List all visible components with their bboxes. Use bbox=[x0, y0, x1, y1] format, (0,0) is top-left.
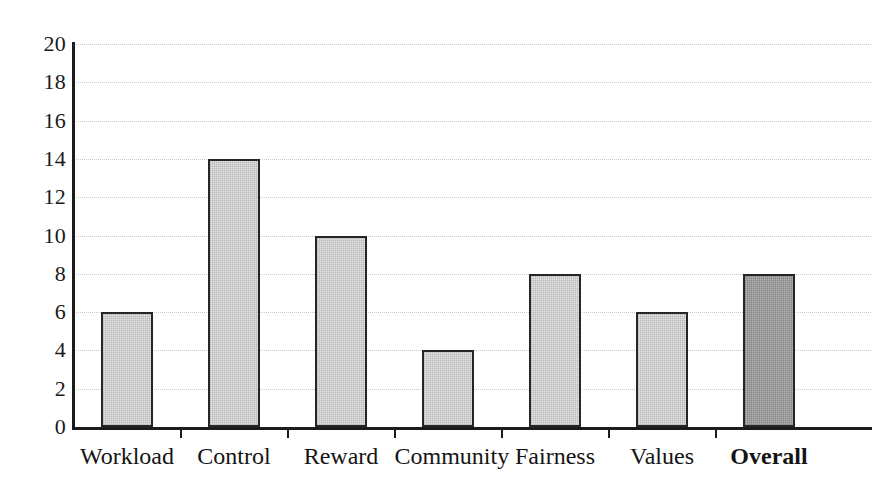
x-label-reward: Reward bbox=[288, 441, 395, 471]
bar-control bbox=[208, 159, 260, 427]
y-tick-label-4: 4 bbox=[8, 339, 66, 361]
x-tick-5 bbox=[715, 427, 717, 438]
y-axis-tick-labels: 20181614121086420 bbox=[0, 0, 66, 496]
y-tick-label-6: 6 bbox=[8, 301, 66, 323]
y-tick-label-0: 0 bbox=[8, 416, 66, 438]
x-tick-4 bbox=[608, 427, 610, 438]
bar-reward bbox=[315, 236, 367, 428]
x-tick-2 bbox=[394, 427, 396, 438]
gridline-20 bbox=[74, 44, 871, 45]
x-label-workload: Workload bbox=[74, 441, 181, 471]
bar-chart: 20181614121086420 WorkloadControlRewardC… bbox=[0, 0, 896, 496]
gridline-14 bbox=[74, 159, 871, 160]
x-label-values: Values bbox=[609, 441, 716, 471]
y-tick-label-10: 10 bbox=[8, 225, 66, 247]
gridline-18 bbox=[74, 82, 871, 83]
bar-values bbox=[636, 312, 688, 427]
gridline-10 bbox=[74, 236, 871, 237]
y-axis-line bbox=[72, 42, 75, 430]
bar-overall bbox=[743, 274, 795, 427]
y-tick-label-2: 2 bbox=[8, 378, 66, 400]
x-tick-1 bbox=[287, 427, 289, 438]
x-axis-line bbox=[72, 427, 872, 430]
y-tick-label-8: 8 bbox=[8, 263, 66, 285]
x-tick-0 bbox=[180, 427, 182, 438]
y-tick-label-18: 18 bbox=[8, 71, 66, 93]
x-label-control: Control bbox=[181, 441, 288, 471]
y-tick-label-12: 12 bbox=[8, 186, 66, 208]
y-tick-label-16: 16 bbox=[8, 110, 66, 132]
gridline-12 bbox=[74, 197, 871, 198]
plot-area bbox=[74, 44, 871, 427]
y-tick-label-14: 14 bbox=[8, 148, 66, 170]
x-label-overall: Overall bbox=[716, 441, 823, 471]
x-tick-3 bbox=[501, 427, 503, 438]
x-label-fairness: Fairness bbox=[502, 441, 609, 471]
gridline-16 bbox=[74, 121, 871, 122]
x-label-community: Community bbox=[395, 441, 502, 471]
y-tick-label-20: 20 bbox=[8, 33, 66, 55]
bar-community bbox=[422, 350, 474, 427]
bar-workload bbox=[101, 312, 153, 427]
bar-fairness bbox=[529, 274, 581, 427]
